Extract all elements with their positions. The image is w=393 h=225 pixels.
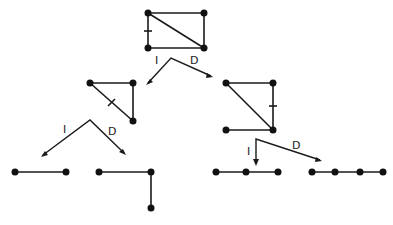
vertex <box>12 169 19 176</box>
vertex <box>309 169 316 176</box>
vertex <box>332 169 339 176</box>
branch-label-left: I <box>247 145 250 158</box>
graph-root-I-D <box>96 169 155 212</box>
graph-root-D <box>223 80 278 134</box>
arrowhead <box>315 157 322 162</box>
graph-root <box>144 10 208 52</box>
vertex <box>96 169 103 176</box>
vertex <box>270 80 277 87</box>
branch-arrow <box>256 139 320 163</box>
vertex <box>130 80 137 87</box>
vertex <box>148 205 155 212</box>
vertex <box>213 169 220 176</box>
vertex <box>223 127 230 134</box>
branch-label-right: D <box>292 139 300 152</box>
vertex <box>270 127 277 134</box>
vertex <box>130 118 137 125</box>
branch-root: I D <box>146 54 213 85</box>
vertex <box>148 169 155 176</box>
vertex <box>357 169 364 176</box>
recursion-tree-diagram: I D I D I D <box>0 0 393 225</box>
branch-label-right: D <box>108 125 116 138</box>
vertex <box>223 80 230 87</box>
graph-root-D-I <box>213 169 282 176</box>
vertex <box>145 45 152 52</box>
vertex <box>201 10 208 17</box>
arrowhead <box>253 159 259 166</box>
arrowhead <box>146 79 153 85</box>
vertex <box>87 80 94 87</box>
vertex <box>243 169 250 176</box>
branch-label-left: I <box>63 123 66 136</box>
graph-root-I-I <box>12 169 70 176</box>
graph-root-I <box>87 80 137 125</box>
branch-label-right: D <box>190 54 198 67</box>
edge <box>226 83 273 130</box>
vertex <box>145 10 152 17</box>
arrowhead <box>206 73 213 78</box>
vertex <box>63 169 70 176</box>
vertex <box>201 45 208 52</box>
vertex <box>275 169 282 176</box>
branch-root-D: I D <box>247 139 322 166</box>
vertex <box>380 169 387 176</box>
branch-root-I: I D <box>41 120 126 157</box>
graph-root-D-D <box>309 169 387 176</box>
branch-label-left: I <box>155 54 158 67</box>
edge-diagonal <box>148 13 204 48</box>
